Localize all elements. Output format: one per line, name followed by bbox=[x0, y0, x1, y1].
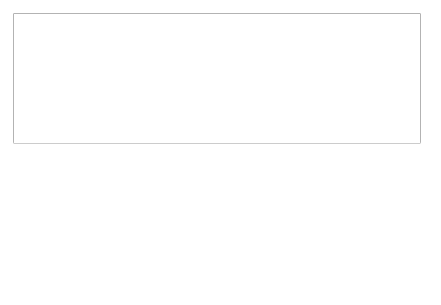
teaching-research-quadrant-diagram bbox=[0, 0, 441, 305]
diagram-lines bbox=[0, 0, 441, 305]
